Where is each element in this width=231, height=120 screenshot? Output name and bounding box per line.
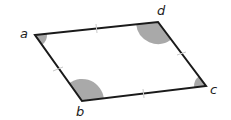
tick-mark-cb: [143, 89, 144, 98]
vertex-label-a: a: [20, 26, 28, 41]
rhombus-outline: [35, 22, 206, 101]
rhombus-diagram: a b c d: [0, 0, 231, 120]
tick-mark-ad: [96, 24, 97, 33]
vertex-label-b: b: [76, 104, 84, 119]
vertex-label-c: c: [210, 82, 217, 97]
vertex-label-d: d: [157, 3, 166, 18]
